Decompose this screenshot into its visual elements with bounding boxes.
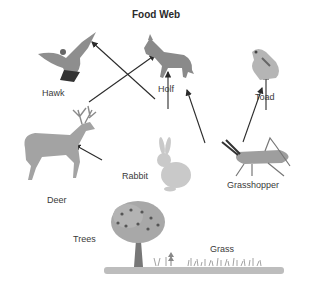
label-grass: Grass [210, 244, 234, 254]
hawk-icon [38, 32, 96, 82]
label-rabbit: Rabbit [122, 171, 148, 181]
rabbit-icon [157, 137, 191, 192]
tree-icon [111, 201, 165, 267]
label-wolf: Holf [158, 84, 174, 94]
label-deer: Deer [47, 195, 67, 205]
grasshopper-icon [222, 138, 290, 176]
label-hawk: Hawk [42, 88, 65, 98]
label-grasshopper: Grasshopper [227, 180, 279, 190]
label-trees: Trees [73, 234, 96, 244]
ground-strip [104, 267, 284, 274]
deer-icon [24, 106, 96, 180]
toad-icon [252, 49, 279, 80]
diagram-graphics [0, 0, 312, 291]
wolf-icon [144, 34, 194, 78]
food-web-diagram: Food Web [0, 0, 312, 291]
arrow-grass-rabbit [187, 90, 205, 143]
sapling-icon [168, 252, 174, 266]
label-toad: Toad [255, 92, 275, 102]
arrow-deer-wolf [89, 55, 155, 102]
